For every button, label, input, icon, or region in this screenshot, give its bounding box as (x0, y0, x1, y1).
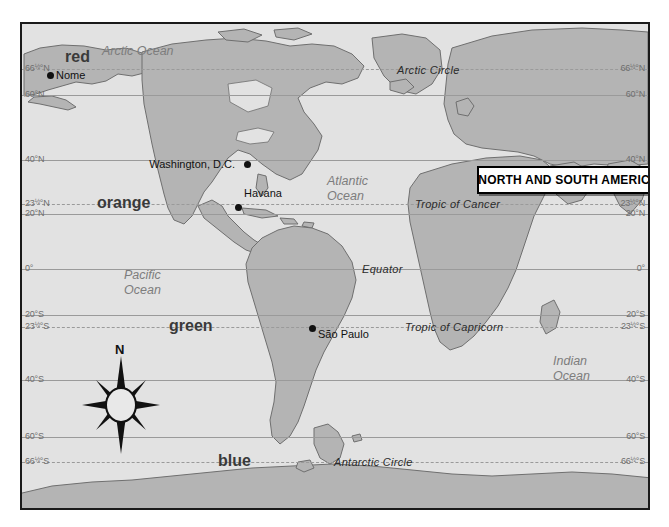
city-dot-icon (309, 325, 316, 332)
word-red: red (65, 48, 90, 66)
ocean-label-indian-ocean: IndianOcean (553, 354, 590, 384)
arctic-circle-label: Arctic Circle (397, 64, 460, 76)
compass-rose-icon (82, 356, 160, 468)
lat-label-left-antarctic-circle: 66½°S (25, 456, 49, 466)
lat-label-right-lat-20n: 20°N (626, 208, 645, 218)
gridline-lat-60n (22, 95, 648, 96)
lat-label-left-arctic-circle: 66½°N (25, 63, 50, 73)
lat-label-right-lat-40s: 40°S (626, 374, 645, 384)
lat-label-left-lat-60n: 60°N (25, 89, 44, 99)
lat-label-right-lat-60s: 60°S (626, 431, 645, 441)
city-dot-icon (235, 204, 242, 211)
lat-label-right-arctic-circle: 66½°N (620, 63, 645, 73)
lat-label-right-lat-60n: 60°N (626, 89, 645, 99)
lat-label-right-tropic-cancer: 23½°N (620, 198, 645, 208)
word-green: green (169, 317, 213, 335)
city-label-washington-dc: Washington, D.C. (149, 158, 235, 170)
lat-label-left-lat-40s: 40°S (25, 374, 44, 384)
equator-label: Equator (362, 263, 403, 275)
compass-center-circle (106, 388, 136, 422)
lat-label-left-lat-20n: 20°N (25, 208, 44, 218)
landmass-antarctica (22, 464, 648, 508)
map-canvas: 66½°N60°N40°N23½°N20°N0°20°S23½°S40°S60°… (22, 24, 648, 508)
word-blue: blue (218, 452, 251, 470)
landmass-arctic-islands-b (274, 28, 312, 40)
map-title-box: NORTH AND SOUTH AMERICA (477, 166, 650, 194)
lat-label-left-lat-20s: 20°S (25, 309, 44, 319)
ocean-label-arctic-ocean: Arctic Ocean (102, 44, 174, 59)
ocean-label-pacific-ocean: PacificOcean (124, 268, 161, 298)
landmass-south-georgia (352, 434, 362, 442)
lat-label-left-tropic-capricorn: 23½°S (25, 321, 49, 331)
ocean-label-atlantic-ocean: AtlanticOcean (327, 174, 368, 204)
compass-north-letter: N (115, 342, 124, 357)
gridline-equator (22, 269, 648, 270)
city-label-havana: Havana (244, 187, 282, 199)
tropic-capricorn-label: Tropic of Capricorn (405, 321, 503, 333)
map-title-text: NORTH AND SOUTH AMERICA (478, 173, 650, 187)
word-orange: orange (97, 194, 150, 212)
landmass-eurasia (444, 28, 648, 168)
lat-label-right-lat-20s: 20°S (626, 309, 645, 319)
antarctic-circle-label: Antarctic Circle (334, 456, 413, 468)
lat-label-right-tropic-capricorn: 23½°S (621, 321, 645, 331)
lat-label-right-antarctic-circle: 66½°S (621, 456, 645, 466)
city-dot-icon (244, 161, 251, 168)
world-map-frame: 66½°N60°N40°N23½°N20°N0°20°S23½°S40°S60°… (20, 22, 650, 510)
lat-label-right-equator: 0° (637, 263, 645, 273)
lat-label-left-lat-60s: 60°S (25, 431, 44, 441)
landmass-madagascar (540, 300, 560, 334)
city-label-nome: Nome (56, 69, 85, 81)
gridline-lat-40n (22, 160, 648, 161)
map-page: 66½°N60°N40°N23½°N20°N0°20°S23½°S40°S60°… (0, 0, 669, 527)
gridline-lat-20n (22, 214, 648, 215)
city-label-sao-paulo: São Paulo (318, 328, 369, 340)
gridline-arctic-circle (22, 69, 648, 70)
gridline-lat-20s (22, 315, 648, 316)
compass-rose: N (82, 342, 160, 454)
city-dot-icon (47, 72, 54, 79)
lat-label-left-tropic-cancer: 23½°N (25, 198, 50, 208)
lat-label-left-lat-40n: 40°N (25, 154, 44, 164)
landmass-cuba (242, 208, 278, 218)
tropic-cancer-label: Tropic of Cancer (415, 198, 500, 210)
lat-label-left-equator: 0° (25, 263, 33, 273)
lat-label-right-lat-40n: 40°N (626, 154, 645, 164)
landmass-hispaniola (280, 218, 298, 224)
